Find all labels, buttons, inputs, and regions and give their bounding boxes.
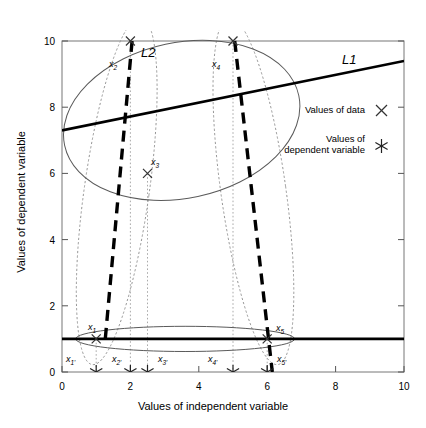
point-label-x2p: x2': [111, 354, 122, 366]
point-label-x3: x3: [150, 157, 160, 169]
x-tick-label: 0: [59, 381, 65, 392]
point-label-x4: x4: [211, 59, 221, 71]
projected-point-labels: x1' x2' x3' x4' x5': [65, 354, 287, 366]
x-tick-label: 4: [196, 381, 202, 392]
point-label-x1: x1: [87, 322, 97, 334]
legend-label-dependent-line1: Values of: [326, 133, 365, 144]
y-tick-label: 4: [49, 235, 55, 246]
y-tick-label: 10: [44, 36, 56, 47]
y-tick-label: 0: [49, 367, 55, 378]
asterisk-marker-legend-icon: [375, 139, 387, 153]
main-data-ellipse: [48, 19, 315, 221]
legend-label-dependent-line2: dependent variable: [284, 144, 365, 155]
legend-label-data: Values of data: [305, 104, 366, 115]
point-label-x5p: x5': [276, 354, 287, 366]
drop-lines: [96, 41, 267, 372]
line-l1: [62, 61, 404, 130]
x-tick-labels: 0 2 4 6 8 10: [59, 381, 410, 392]
line-l2-left: [105, 41, 132, 344]
data-point-labels: x1 x2 x3 x4 x5: [87, 59, 285, 335]
point-label-x3p: x3': [157, 354, 168, 366]
cross-marker-legend-icon: [376, 105, 387, 116]
figure-container: 0 2 4 6 8 10 0 2 4 6 8 10 L1 L2 x1 x2: [0, 0, 426, 428]
point-label-x5: x5: [275, 323, 285, 335]
x-axis-label: Values of independent variable: [0, 400, 426, 412]
y-tick-label: 2: [49, 301, 55, 312]
point-label-x1p: x1': [65, 354, 76, 366]
y-axis-label: Values of dependent variable: [15, 77, 27, 327]
label-l2: L2: [141, 45, 156, 60]
y-tick-label: 6: [49, 168, 55, 179]
point-label-x4p: x4': [207, 354, 218, 366]
y-tick-labels: 0 2 4 6 8 10: [44, 36, 56, 378]
x-tick-label: 2: [128, 381, 134, 392]
x-tick-label: 10: [398, 381, 410, 392]
x-tick-label: 8: [333, 381, 339, 392]
y-tick-label: 8: [49, 102, 55, 113]
line-name-labels: L1 L2: [141, 45, 356, 67]
cross-marker-x3: [143, 169, 152, 178]
label-l1: L1: [342, 52, 356, 67]
x-tick-label: 6: [264, 381, 270, 392]
chart-canvas: 0 2 4 6 8 10 0 2 4 6 8 10 L1 L2 x1 x2: [0, 0, 426, 428]
